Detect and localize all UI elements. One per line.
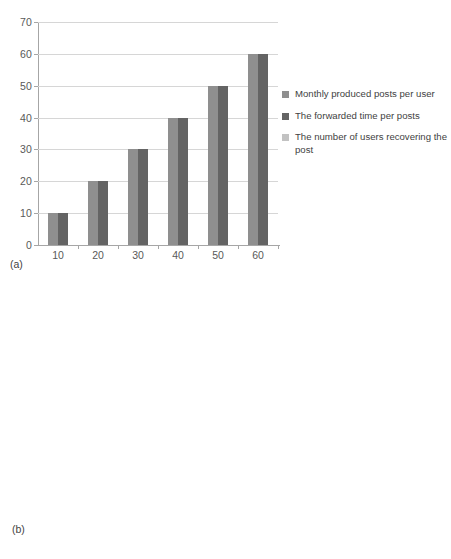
chart-gridline [38, 22, 278, 23]
chart-bar-group [248, 54, 268, 245]
chart-x-tick-mark [278, 245, 279, 249]
chart-bar [128, 149, 138, 245]
chart-x-tick-mark [158, 245, 159, 249]
chart-y-tick-label: 50 [20, 80, 32, 92]
flow-diagram-panel: Management of data crawling Access Quali… [0, 278, 451, 559]
chart-y-tick-label: 10 [20, 207, 32, 219]
chart-bar [138, 149, 148, 245]
legend-item-label: The forwarded time per posts [295, 110, 420, 123]
chart-y-tick-mark [34, 149, 38, 150]
chart-y-tick-label: 30 [20, 143, 32, 155]
figure-caption-b: (b) [12, 523, 25, 535]
chart-bar [48, 213, 58, 245]
chart-bar [258, 54, 268, 245]
chart-bar [248, 54, 258, 245]
legend-item-label: Monthly produced posts per user [295, 88, 435, 101]
chart-x-tick-label: 60 [252, 249, 264, 261]
chart-bar [178, 118, 188, 245]
legend-swatch-icon [282, 91, 289, 98]
chart-x-tick-mark [238, 245, 239, 249]
chart-y-tick-label: 70 [20, 16, 32, 28]
chart-plot-area: 010203040506070 [38, 22, 278, 245]
chart-y-tick-mark [34, 22, 38, 23]
chart-y-tick-mark [34, 181, 38, 182]
chart-bar-group [168, 118, 188, 245]
chart-y-tick-mark [34, 213, 38, 214]
chart-y-tick-mark [34, 245, 38, 246]
chart-gridline [38, 213, 278, 214]
chart-x-tick-label: 20 [92, 249, 104, 261]
chart-bar [168, 118, 178, 245]
legend-item: The forwarded time per posts [282, 110, 448, 123]
chart-bar-group [88, 181, 108, 245]
chart-gridline [38, 149, 278, 150]
chart-bar-group [208, 86, 228, 245]
chart-gridline [38, 86, 278, 87]
chart-bar [98, 181, 108, 245]
chart-y-tick-mark [34, 54, 38, 55]
chart-bar-group [128, 149, 148, 245]
figure-caption-a: (a) [10, 258, 23, 270]
legend-swatch-icon [282, 113, 289, 120]
chart-x-tick-label: 50 [212, 249, 224, 261]
chart-x-tick-label: 40 [172, 249, 184, 261]
chart-gridline [38, 181, 278, 182]
legend-item-label: The number of users recovering the post [295, 131, 448, 156]
chart-y-tick-label: 60 [20, 48, 32, 60]
chart-bar [218, 86, 228, 245]
legend-item: The number of users recovering the post [282, 131, 448, 156]
legend-item: Monthly produced posts per user [282, 88, 448, 101]
diagram-connectors [0, 278, 451, 559]
chart-bar [58, 213, 68, 245]
chart-x-axis [38, 245, 280, 246]
chart-y-tick-mark [34, 86, 38, 87]
chart-y-tick-label: 20 [20, 175, 32, 187]
chart-bar [88, 181, 98, 245]
chart-gridline [38, 118, 278, 119]
chart-y-tick-label: 40 [20, 112, 32, 124]
legend-swatch-icon [282, 134, 289, 141]
chart-legend: Monthly produced posts per user The forw… [282, 88, 448, 165]
chart-x-tick-mark [78, 245, 79, 249]
chart-bar-group [48, 213, 68, 245]
chart-x-tick-label: 10 [52, 249, 64, 261]
chart-bar [208, 86, 218, 245]
chart-x-tick-mark [118, 245, 119, 249]
bar-chart-panel: 010203040506070 Monthly produced posts p… [0, 0, 451, 278]
chart-y-tick-mark [34, 118, 38, 119]
chart-x-tick-mark [198, 245, 199, 249]
chart-x-tick-label: 30 [132, 249, 144, 261]
chart-gridline [38, 54, 278, 55]
chart-y-tick-label: 0 [26, 239, 32, 251]
